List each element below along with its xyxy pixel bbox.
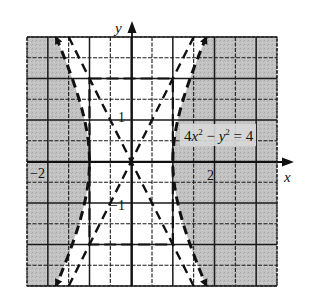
tick-label-neg2: −2 (30, 166, 45, 181)
tick-label-neg1: −1 (110, 198, 125, 213)
x-axis-arrow-icon (282, 158, 294, 167)
hyperbola-graph: y x −2 2 1 −1 4x2 − y2 = 4 (0, 0, 310, 306)
x-axis-label: x (283, 169, 291, 185)
tick-label-pos2: 2 (207, 168, 214, 183)
y-axis-arrow-icon (128, 21, 137, 33)
tick-label-pos1: 1 (118, 110, 125, 125)
equation-label: 4x2 − y2 = 4 (184, 127, 254, 144)
y-axis-label: y (113, 20, 122, 36)
